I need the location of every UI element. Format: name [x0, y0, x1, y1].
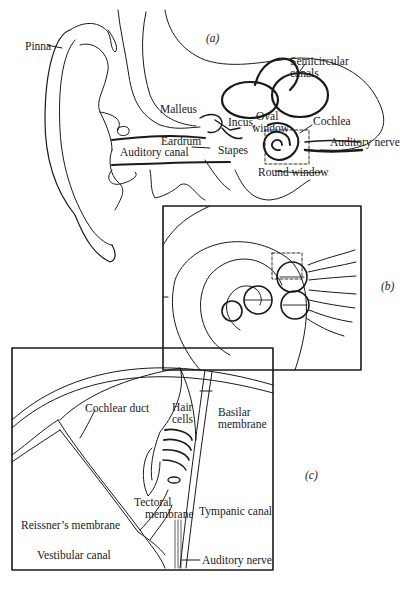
- label-oval-window-line1: Oval: [256, 110, 278, 122]
- label-stapes: Stapes: [218, 144, 248, 156]
- label-auditory-canal: Auditory canal: [120, 146, 189, 158]
- label-basilar-membrane-line2: membrane: [218, 418, 267, 430]
- panel-b-tag: (b): [381, 280, 394, 292]
- label-reissners-membrane: Reissner’s membrane: [21, 519, 120, 531]
- panel-c-tag: (c): [305, 469, 318, 481]
- label-malleus: Malleus: [160, 103, 197, 115]
- label-pinna: Pinna: [25, 40, 51, 52]
- label-cochlea: Cochlea: [313, 115, 351, 127]
- hair-cells: [163, 429, 192, 483]
- panel-b-drawing: [163, 206, 361, 370]
- label-tympanic-canal: Tympanic canal: [199, 505, 272, 517]
- label-hair-cells-line2: cells: [172, 413, 193, 425]
- label-round-window: Round window: [258, 166, 329, 178]
- label-auditory-nerve-a: Auditory nerve: [330, 136, 400, 148]
- label-auditory-nerve-c: Auditory nerve: [202, 554, 272, 566]
- panel-a-tag: (a): [206, 32, 219, 44]
- label-hair-cells-line1: Hair: [172, 401, 192, 413]
- label-semicircular-canals-line2: canals: [290, 67, 319, 79]
- label-semicircular-canals-line1: Semicircular: [290, 55, 349, 67]
- label-cochlear-duct: Cochlear duct: [85, 402, 149, 414]
- label-tectoral-membrane-line2: membrane: [145, 508, 194, 520]
- label-tectoral-membrane-line1: Tectoral: [134, 496, 172, 508]
- label-basilar-membrane-line1: Basilar: [218, 406, 251, 418]
- panel-c-drawing: [12, 348, 273, 570]
- label-oval-window-line2: window: [252, 122, 289, 134]
- ear-anatomy-drawing: [0, 0, 407, 589]
- label-vestibular-canal: Vestibular canal: [37, 549, 111, 561]
